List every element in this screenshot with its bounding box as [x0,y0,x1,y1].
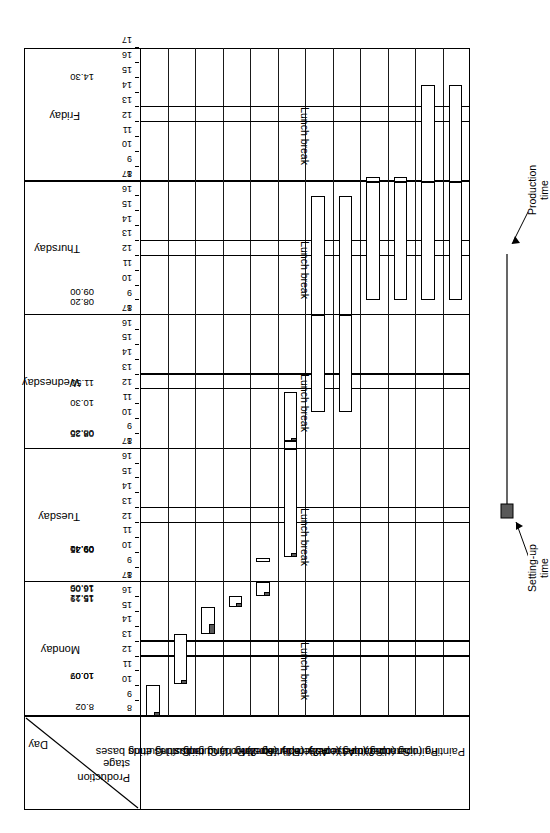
row-separator [360,48,361,716]
hour-tick-label: 13 [121,495,131,504]
hour-tick [135,329,139,330]
time-annotation: 16.05 [70,582,94,592]
chart-legend: Setting-up time Production time [486,50,528,810]
hour-tick-label: 16 [121,183,131,192]
hour-tick-label: 9 [126,688,131,697]
header-stage-label-line2: stage [103,758,130,770]
hour-tick-label: 12 [121,644,131,653]
hour-tick [135,150,139,151]
setting-up-bar [153,711,159,715]
day-separator [24,447,470,448]
time-annotation: 14.30 [70,71,94,81]
hour-tick [135,269,139,270]
hour-tick [135,195,139,196]
lunch-break-edge [140,640,470,641]
time-annotation: 10.30 [70,398,94,408]
hour-tick-label: 9 [126,154,131,163]
hour-tick-label: 12 [121,376,131,385]
production-bar [173,633,187,683]
row-separator [250,48,251,716]
hour-tick-label: 8 [126,703,131,712]
day-label-monday: Monday [40,644,79,655]
day-label-thursday: Thursday [34,243,80,254]
hour-tick [135,61,139,62]
hour-tick-label: 15 [121,466,131,475]
hour-tick [135,655,139,656]
header-day-label: Day [28,739,48,750]
hour-tick-label: 14 [121,614,131,623]
hour-tick [135,91,139,92]
hour-tick-label: 11 [122,525,131,534]
hour-tick-label: 14 [121,213,131,222]
header-row-divider [140,48,141,716]
production-bar [421,85,435,181]
hour-tick [135,388,139,389]
hour-tick [135,477,139,478]
time-annotation: 8.02 [75,702,94,712]
hour-tick-label: 13 [121,362,131,371]
production-bar [393,181,407,300]
hour-tick [135,492,139,493]
hour-tick-label: 10 [121,673,131,682]
production-bar [393,176,407,181]
production-bar [256,557,270,561]
production-bar [448,181,462,300]
hour-tick [135,432,139,433]
hour-tick-label: 15 [121,65,131,74]
hour-tick [135,403,139,404]
lunch-break-label: Lunch break [299,508,310,523]
hour-tick [135,700,139,701]
time-annotation: 09.41 [70,543,94,553]
hour-tick [135,418,139,419]
hour-tick [135,611,139,612]
hour-tick [135,462,139,463]
hour-tick [135,284,139,285]
hour-tick-label: 11 [122,124,131,133]
production-bar [421,181,435,300]
hour-tick-label: 16 [121,50,131,59]
hour-tick-label: 15 [121,332,131,341]
hour-tick [135,358,139,359]
hour-tick-label: 8 [126,569,131,578]
hour-tick-label: 8 [126,436,131,445]
hour-tick-label: 10 [121,139,131,148]
hour-tick [135,180,139,181]
hour-tick-label: 17 [121,35,131,44]
production-bar [311,196,325,315]
hour-tick [135,239,139,240]
setting-up-bar [291,438,297,441]
hour-tick [135,136,139,137]
hour-tick-label: 8 [126,169,131,178]
hour-tick-label: 10 [121,540,131,549]
hour-tick-label: 12 [121,109,131,118]
hour-tick-label: 14 [121,480,131,489]
legend-setting-up-label: Setting-up time [526,508,550,628]
stage-label: Painting (operator 2) [364,746,464,758]
hour-tick [135,522,139,523]
hour-tick-label: 10 [121,273,131,282]
label-header-divider [140,716,141,810]
hour-tick-label: 16 [121,451,131,460]
hour-tick [135,373,139,374]
hour-tick [135,536,139,537]
rotated-canvas: Monday891011121314151617Tuesday891011121… [0,1,534,833]
setting-up-bar [236,603,242,607]
lunch-break-label: Lunch break [299,107,310,122]
setting-up-bar [181,679,187,683]
lunch-break-label: Lunch break [299,240,310,255]
hour-tick [135,566,139,567]
hour-tick-label: 12 [121,243,131,252]
time-annotation: 08.30 [70,427,94,437]
hour-tick [135,47,139,48]
hour-tick [135,76,139,77]
hour-tick-label: 9 [126,555,131,564]
production-bar [283,441,297,448]
row-separator [332,48,333,716]
hour-tick-label: 14 [121,347,131,356]
hour-tick [135,685,139,686]
production-bar [338,196,352,315]
hour-tick [135,210,139,211]
row-separator [415,48,416,716]
production-bar [366,176,380,181]
hour-tick [135,596,139,597]
